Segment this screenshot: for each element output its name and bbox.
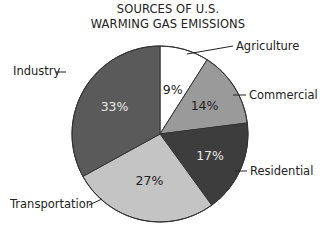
percent-agriculture: 9% (163, 82, 183, 97)
label-residential: Residential (250, 164, 313, 178)
percent-commercial: 14% (191, 98, 219, 113)
percent-residential: 17% (196, 148, 224, 163)
label-transportation: Transportation (9, 197, 93, 211)
label-industry: Industry (13, 64, 60, 78)
pie-chart: 9%14%17%27%33% Agriculture Commercial Re… (0, 0, 336, 233)
label-agriculture: Agriculture (236, 39, 299, 53)
pie-slices (72, 46, 248, 222)
label-commercial: Commercial (249, 88, 318, 102)
percent-transportation: 27% (136, 173, 164, 188)
percent-industry: 33% (101, 99, 129, 114)
